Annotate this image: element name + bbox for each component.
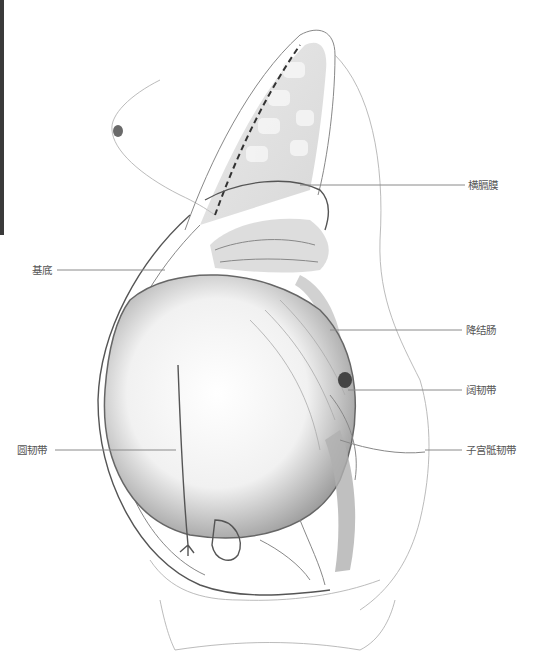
breast-outline	[112, 80, 215, 215]
label-uterosacral-ligament: 子宫骶韧带	[466, 444, 516, 456]
label-round-ligament: 圆韧带	[17, 444, 47, 456]
label-descending-colon: 降结肠	[466, 324, 496, 336]
label-broad-ligament: 阔韧带	[466, 384, 496, 396]
label-fundus: 基底	[32, 264, 52, 276]
rectum	[325, 430, 355, 572]
label-diaphragm: 横膈膜	[468, 179, 498, 191]
nipple	[113, 125, 123, 137]
uterus	[104, 275, 355, 538]
thigh-outline	[160, 600, 395, 650]
uterosacral-ligament	[340, 440, 425, 453]
anatomical-illustration	[0, 0, 542, 662]
ovary	[338, 372, 352, 388]
